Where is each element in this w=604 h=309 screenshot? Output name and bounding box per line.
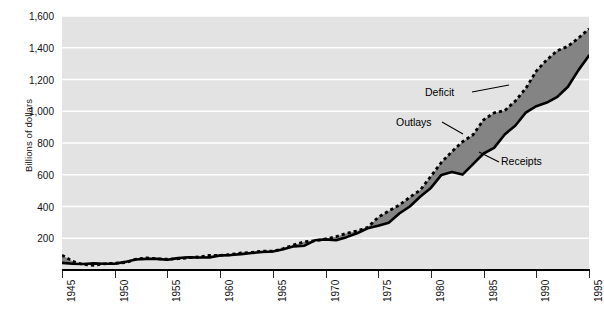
x-axis-tick-label: 1970 [330, 280, 341, 302]
annotation-deficit: Deficit [425, 86, 454, 98]
annotation-receipts: Receipts [501, 155, 542, 167]
x-axis-tick-label: 1975 [382, 280, 393, 302]
x-axis-tick-label: 1965 [277, 280, 288, 302]
x-axis-tick-label: 1950 [119, 280, 130, 302]
x-axis-tick-label: 1945 [66, 280, 77, 302]
x-axis-tick-label: 1980 [435, 280, 446, 302]
x-axis-tick-label: 1995 [593, 280, 604, 302]
x-axis-tick-label: 1960 [224, 280, 235, 302]
annotation-outlays: Outlays [396, 116, 432, 128]
figure-footnote [420, 300, 595, 309]
x-axis-tick-label: 1990 [540, 280, 551, 302]
x-axis-tick-label: 1985 [488, 280, 499, 302]
x-axis-tick-label: 1955 [171, 280, 182, 302]
